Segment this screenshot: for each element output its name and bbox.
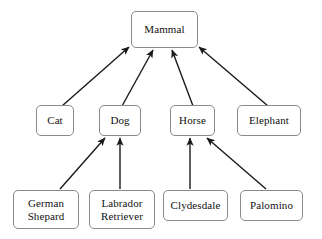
node-cat[interactable]: Cat — [36, 105, 74, 136]
edge-german-shepard-to-dog — [60, 138, 105, 189]
node-label: Palomino — [248, 199, 295, 212]
node-horse[interactable]: Horse — [170, 105, 215, 136]
node-label: German Shepard — [26, 197, 67, 223]
node-label: Horse — [177, 114, 208, 127]
edge-cat-to-mammal — [62, 47, 129, 106]
node-label: Labrador Retriever — [99, 197, 145, 223]
node-palomino[interactable]: Palomino — [240, 190, 303, 221]
node-label: Clydesdale — [169, 199, 223, 212]
node-label: Mammal — [142, 23, 186, 36]
node-label: Elephant — [247, 114, 291, 127]
node-german-shepard[interactable]: German Shepard — [13, 190, 79, 229]
node-dog[interactable]: Dog — [99, 105, 141, 136]
edge-elephant-to-mammal — [199, 47, 268, 106]
edge-horse-to-mammal — [172, 50, 193, 106]
node-elephant[interactable]: Elephant — [237, 105, 301, 136]
edge-dog-to-mammal — [122, 50, 153, 106]
edge-palomino-to-horse — [207, 138, 266, 189]
node-label: Dog — [108, 114, 131, 127]
taxonomy-diagram: Mammal Cat Dog Horse Elephant German She… — [0, 0, 322, 239]
node-labrador-retriever[interactable]: Labrador Retriever — [89, 190, 155, 229]
node-label: Cat — [45, 114, 65, 127]
node-clydesdale[interactable]: Clydesdale — [163, 190, 228, 221]
node-mammal[interactable]: Mammal — [131, 11, 198, 48]
